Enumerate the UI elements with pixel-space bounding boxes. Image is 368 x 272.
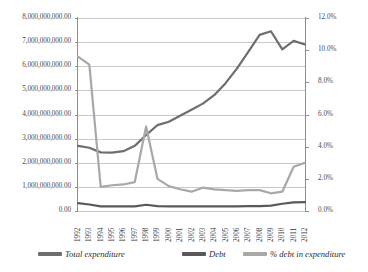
- y-tickmark-left: [75, 163, 78, 164]
- x-axis: 1992199319941995199619971998199920002001…: [78, 212, 305, 248]
- y-tick-left: 3,000,000,000.00: [22, 134, 71, 142]
- x-tick-label: 2011: [290, 212, 298, 242]
- y-tick-right: 0.0%: [318, 206, 333, 214]
- y-tick-left: 4,000,000,000.00: [22, 110, 71, 118]
- y-tick-right: 12.0%: [318, 13, 337, 21]
- y-tickmark-right: [306, 211, 309, 212]
- legend-swatch-icon: [182, 252, 206, 256]
- y-tickmark-right: [306, 50, 309, 51]
- y-tickmark-left: [75, 187, 78, 188]
- y-tickmark-left: [75, 90, 78, 91]
- series-layer: [78, 18, 305, 211]
- x-tick-label: 2002: [188, 212, 196, 242]
- series-line: [78, 31, 305, 152]
- x-tick-label: 2008: [256, 212, 264, 242]
- x-tick-label: 2006: [233, 212, 241, 242]
- plot-area: [78, 18, 305, 211]
- y-tickmark-left: [75, 42, 78, 43]
- legend-item[interactable]: Debt: [182, 249, 226, 259]
- y-tickmark-right: [306, 179, 309, 180]
- x-tick-label: 2010: [278, 212, 286, 242]
- y-tick-left: 0.00: [59, 206, 71, 214]
- x-tick-label: 1995: [108, 212, 116, 242]
- x-tick-label: 1998: [142, 212, 150, 242]
- legend-item[interactable]: % debt in expenditure: [243, 249, 345, 259]
- series-line: [78, 202, 305, 206]
- legend-label: Total expenditure: [65, 249, 125, 259]
- legend-swatch-icon: [38, 252, 62, 256]
- x-tick-label: 2009: [267, 212, 275, 242]
- x-tick-label: 2007: [244, 212, 252, 242]
- y-tickmark-right: [306, 82, 309, 83]
- y-tick-left: 6,000,000,000.00: [22, 61, 71, 69]
- chart-legend: Total expenditureDebt% debt in expenditu…: [0, 249, 368, 269]
- chart-container: 8,000,000,000.007,000,000,000.006,000,00…: [0, 0, 368, 272]
- y-tickmark-right: [306, 115, 309, 116]
- y-tick-right: 4.0%: [318, 142, 333, 150]
- y-tick-right: 6.0%: [318, 110, 333, 118]
- y-axis-left: 8,000,000,000.007,000,000,000.006,000,00…: [0, 0, 74, 272]
- y-tick-right: 2.0%: [318, 174, 333, 182]
- x-tick-label: 2012: [301, 212, 309, 242]
- x-tick-label: 2005: [222, 212, 230, 242]
- legend-label: Debt: [209, 249, 226, 259]
- x-tick-label: 2000: [165, 212, 173, 242]
- y-tick-left: 2,000,000,000.00: [22, 158, 71, 166]
- x-tick-label: 1992: [74, 212, 82, 242]
- legend-swatch-icon: [243, 252, 267, 256]
- y-tick-left: 8,000,000,000.00: [22, 13, 71, 21]
- legend-item[interactable]: Total expenditure: [38, 249, 125, 259]
- y-tickmark-right: [306, 147, 309, 148]
- x-tick-label: 1996: [119, 212, 127, 242]
- y-tickmark-right: [306, 18, 309, 19]
- y-tick-left: 5,000,000,000.00: [22, 85, 71, 93]
- y-tick-left: 1,000,000,000.00: [22, 182, 71, 190]
- y-tickmark-left: [75, 66, 78, 67]
- x-tick-label: 1994: [97, 212, 105, 242]
- y-tickmark-left: [75, 18, 78, 19]
- x-tick-label: 1997: [131, 212, 139, 242]
- x-tick-label: 2001: [176, 212, 184, 242]
- y-tick-right: 8.0%: [318, 77, 333, 85]
- y-axis-right: 12.0%10.0%8.0%6.0%4.0%2.0%0.0%: [310, 0, 368, 272]
- x-tick-label: 1999: [153, 212, 161, 242]
- y-tickmark-left: [75, 211, 78, 212]
- y-tick-right: 10.0%: [318, 45, 337, 53]
- y-tickmark-left: [75, 115, 78, 116]
- y-tick-left: 7,000,000,000.00: [22, 37, 71, 45]
- y-tickmark-left: [75, 139, 78, 140]
- series-line: [78, 57, 305, 194]
- x-tick-label: 2004: [210, 212, 218, 242]
- x-tick-label: 1993: [85, 212, 93, 242]
- legend-label: % debt in expenditure: [270, 249, 345, 259]
- x-tick-label: 2003: [199, 212, 207, 242]
